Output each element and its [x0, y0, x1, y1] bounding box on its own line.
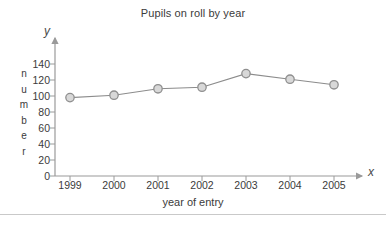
x-tick-label: 2004 [268, 179, 312, 191]
x-tick-label: 2000 [92, 179, 136, 191]
x-tick-label: 2001 [136, 179, 180, 191]
x-axis-title: year of entry [0, 196, 386, 208]
line-chart-figure: Pupils on roll by year y x n u m b e r [0, 0, 386, 227]
x-axis-tick-labels: 1999 2000 2001 2002 2003 2004 2005 [0, 0, 386, 227]
x-tick-label: 1999 [48, 179, 92, 191]
footer-divider [0, 214, 386, 215]
x-tick-label: 2005 [312, 179, 356, 191]
x-tick-label: 2002 [180, 179, 224, 191]
x-tick-label: 2003 [224, 179, 268, 191]
page-edge-artifact [0, 221, 386, 227]
